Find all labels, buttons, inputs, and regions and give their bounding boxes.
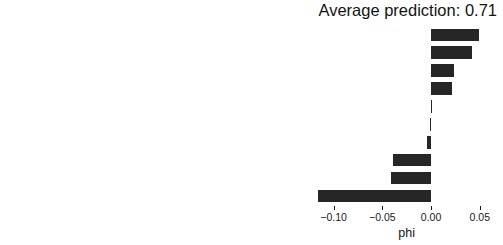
bar-row: savings=unknown/no savings account: [306, 151, 496, 169]
bar-row: amount=701: [306, 169, 496, 187]
x-axis-tick-mark: [382, 206, 383, 210]
bar: [431, 100, 432, 113]
bar: [318, 190, 431, 203]
bar-row: credit_history=no credits taken/all cred…: [306, 116, 496, 134]
x-axis-title: phi: [398, 226, 415, 240]
bar-row: employment_duration=1 <= ... < 4 yrs: [306, 133, 496, 151]
bar-row: status=no checking account: [306, 187, 496, 205]
x-axis-tick-label: 0.00: [421, 211, 441, 223]
bar: [431, 82, 451, 95]
x-axis-tick-mark: [480, 206, 481, 210]
bar: [391, 172, 431, 185]
x-axis-tick-label: 0.05: [470, 211, 490, 223]
bar: [393, 154, 431, 167]
bar: [430, 118, 431, 131]
x-axis: −0.10−0.050.000.05phi: [306, 206, 496, 242]
chart-title: Average prediction: 0.71: [318, 0, 497, 20]
bar: [431, 29, 479, 42]
bar-row: other_debtors=none: [306, 98, 496, 116]
bar-row: age=40: [306, 80, 496, 98]
x-axis-tick-mark: [431, 206, 432, 210]
x-axis-tick-mark: [334, 206, 335, 210]
bar: [431, 64, 454, 77]
bar-row: property=unknown / no property: [306, 62, 496, 80]
x-axis-tick-label: −0.10: [320, 211, 347, 223]
bar-row: purpose=furniture/equipment: [306, 44, 496, 62]
bar: [431, 46, 472, 59]
x-axis-tick-label: −0.05: [369, 211, 396, 223]
shap-contribution-chart: Average prediction: 0.71 duration=12purp…: [0, 0, 503, 245]
plot-area: duration=12purpose=furniture/equipmentpr…: [306, 26, 496, 206]
bar-row: duration=12: [306, 26, 496, 44]
bar: [427, 136, 431, 149]
